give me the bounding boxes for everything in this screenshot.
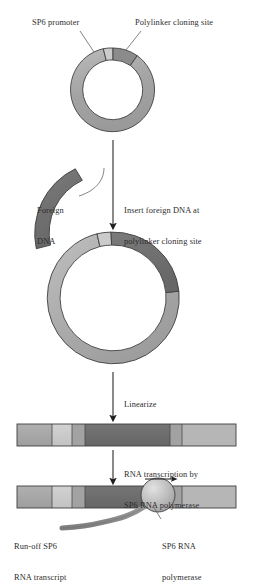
segment-foreign-dna bbox=[85, 424, 170, 446]
vector-backbone-segment bbox=[71, 49, 155, 132]
label-runoff-line2: RNA transcript bbox=[14, 573, 66, 583]
label-runoff-transcript: Run-off SP6 RNA transcript bbox=[14, 522, 66, 586]
label-runoff-line1: Run-off SP6 bbox=[14, 542, 66, 552]
sp6-promoter-leader bbox=[80, 31, 94, 52]
label-transcription-step: RNA transcription by SP6 RNA polymerase bbox=[124, 450, 199, 521]
linearized-dna bbox=[17, 424, 236, 446]
label-transcription-line1: RNA transcription by bbox=[124, 470, 199, 480]
sp6-promoter-segment bbox=[97, 232, 112, 246]
label-transcription-line2: SP6 RNA polymerase bbox=[124, 501, 199, 511]
label-sp6-promoter: SP6 promoter bbox=[32, 18, 80, 28]
label-foreign-dna-line1: Foreign bbox=[37, 206, 64, 216]
segment-polylinker-left bbox=[72, 424, 85, 446]
segment-polylinker-right bbox=[170, 424, 182, 446]
label-linearize-step: Linearize bbox=[124, 400, 157, 410]
label-insert-line1: Insert foreign DNA at bbox=[124, 206, 202, 216]
segment-sp6-promoter bbox=[52, 486, 72, 508]
segment-vector-left bbox=[17, 486, 52, 508]
foreign-dna-leader bbox=[79, 168, 104, 196]
label-polymerase-line1: SP6 RNA bbox=[162, 542, 202, 552]
label-foreign-dna: Foreign DNA bbox=[37, 186, 64, 257]
label-polylinker-cloning-site: Polylinker cloning site bbox=[135, 18, 213, 28]
segment-polylinker-left bbox=[72, 486, 85, 508]
label-sp6-rna-polymerase: SP6 RNA polymerase bbox=[162, 522, 202, 586]
label-foreign-dna-line2: DNA bbox=[37, 237, 64, 247]
segment-vector-left bbox=[17, 424, 52, 446]
segment-sp6-promoter bbox=[52, 424, 72, 446]
label-insert-line2: polylinker cloning site bbox=[124, 237, 202, 247]
segment-vector-right bbox=[182, 424, 236, 446]
label-polymerase-line2: polymerase bbox=[162, 573, 202, 583]
polylinker-leader bbox=[126, 31, 141, 50]
plasmid-vector bbox=[71, 48, 155, 132]
label-insert-step: Insert foreign DNA at polylinker cloning… bbox=[124, 186, 202, 257]
